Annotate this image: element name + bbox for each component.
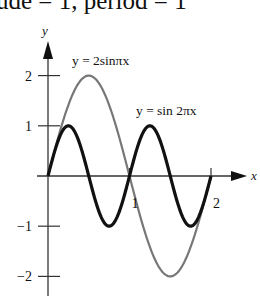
- chart: xy21−1−212y = 2sinπxy = sin 2πx: [0, 0, 260, 304]
- y-axis-arrow: [43, 41, 53, 59]
- x-tick-label: 2: [213, 196, 220, 211]
- y-tick-label: 1: [25, 119, 32, 134]
- x-tick-label: 1: [132, 196, 139, 211]
- series-label-two-sin-pi-x: y = 2sinπx: [72, 53, 129, 68]
- y-tick-label: −1: [17, 219, 32, 234]
- y-tick-label: 2: [25, 69, 32, 84]
- axes: [37, 41, 247, 296]
- series-label-sin-two-pi-x: y = sin 2πx: [136, 103, 197, 118]
- y-tick-label: −2: [17, 269, 32, 284]
- y-axis-label: y: [40, 23, 48, 38]
- x-axis-arrow: [231, 171, 247, 181]
- x-axis-label: x: [250, 168, 257, 183]
